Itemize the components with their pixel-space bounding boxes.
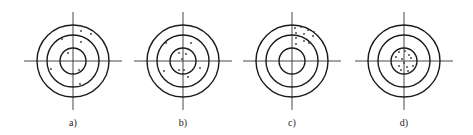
shot-mark	[183, 69, 185, 71]
shot-mark	[395, 56, 397, 58]
shot-mark	[303, 33, 305, 35]
shot-mark	[408, 54, 410, 56]
shot-mark	[300, 26, 302, 28]
target-d: d)	[355, 12, 453, 129]
target-label: a)	[69, 117, 77, 129]
shot-mark	[190, 42, 192, 44]
shot-mark	[401, 58, 403, 60]
target-label: c)	[288, 117, 296, 129]
shot-mark	[163, 70, 165, 72]
shot-mark	[187, 76, 189, 78]
shot-mark	[80, 41, 82, 43]
shot-mark	[50, 68, 52, 70]
shot-mark	[303, 40, 305, 42]
shot-mark	[400, 69, 402, 71]
shot-mark	[410, 57, 412, 59]
target-b: b)	[134, 12, 232, 129]
shot-mark	[78, 69, 80, 71]
target-a: a)	[24, 12, 122, 129]
target-label: d)	[400, 117, 408, 129]
shot-mark	[294, 27, 296, 29]
shot-mark	[403, 62, 405, 64]
shot-mark	[407, 70, 409, 72]
shot-mark	[307, 29, 309, 31]
shot-mark	[398, 65, 400, 67]
shot-mark	[406, 66, 408, 68]
shot-mark	[165, 42, 167, 44]
shot-mark	[295, 32, 297, 34]
shot-mark	[398, 51, 400, 53]
shot-mark	[404, 50, 406, 52]
shot-mark	[80, 30, 82, 32]
shot-mark	[181, 58, 183, 60]
shot-mark	[295, 43, 297, 45]
shot-mark	[79, 83, 81, 85]
shot-mark	[295, 37, 297, 39]
shot-grouping-diagram: a)b)c)d)	[0, 0, 473, 135]
shot-mark	[90, 33, 92, 35]
shot-mark	[308, 42, 310, 44]
shot-mark	[312, 35, 314, 37]
target-c: c)	[243, 12, 341, 129]
shot-mark	[185, 53, 187, 55]
shot-mark	[313, 31, 315, 33]
shot-mark	[67, 52, 69, 54]
shot-mark	[412, 65, 414, 67]
shot-mark	[61, 38, 63, 40]
shot-mark	[178, 52, 180, 54]
shot-mark	[199, 67, 201, 69]
shot-mark	[178, 69, 180, 71]
target-label: b)	[179, 117, 187, 129]
